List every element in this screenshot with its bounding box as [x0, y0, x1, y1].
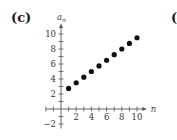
x-tick-label: 2: [73, 112, 78, 122]
x-tick-label: 10: [132, 112, 143, 122]
data-point: [66, 86, 71, 91]
scatter-plot: 246810−2246810nan: [0, 0, 177, 140]
y-tick-label: −2: [43, 119, 56, 129]
y-axis-label: an: [57, 12, 66, 23]
data-point: [112, 52, 117, 57]
x-tick-label: 6: [104, 112, 109, 122]
data-point: [96, 63, 101, 68]
data-point: [89, 69, 94, 74]
data-point: [127, 41, 132, 46]
y-axis-arrow-icon: [59, 24, 63, 29]
y-tick-label: 4: [51, 74, 56, 84]
data-point: [74, 80, 79, 85]
y-tick-label: 2: [51, 89, 56, 99]
x-axis-arrow-icon: [142, 107, 147, 111]
x-axis-label: n: [151, 104, 156, 114]
data-point: [134, 35, 139, 40]
y-tick-label: 10: [45, 29, 56, 39]
data-point: [81, 75, 86, 80]
x-tick-label: 4: [89, 112, 94, 122]
data-point: [119, 46, 124, 51]
y-tick-label: 6: [51, 59, 56, 69]
data-point: [104, 58, 109, 63]
x-tick-label: 8: [119, 112, 124, 122]
y-tick-label: 8: [51, 44, 56, 54]
